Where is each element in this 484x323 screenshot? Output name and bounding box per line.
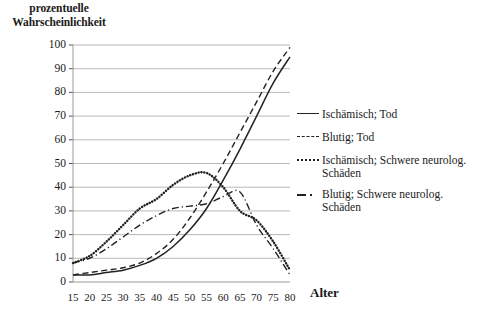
y-axis-tick-label: 0 [36,276,66,288]
y-axis-tick-label: 60 [36,134,66,146]
y-axis-tick-label: 70 [36,110,66,122]
y-axis-tick-label: 10 [36,252,66,264]
y-axis-tick-label: 50 [36,158,66,170]
legend-item[interactable]: Blutig; Schwere neurolog. Schäden [297,188,484,213]
x-axis-title: Alter [310,285,339,301]
legend-item[interactable]: Ischämisch; Tod [297,108,484,122]
y-axis-tick-label: 90 [36,63,66,75]
legend-item-label: Blutig; Tod [322,131,484,144]
legend-line-swatch-dashed [297,136,319,140]
legend-item-label: Ischämisch; Schwere neurolog. Schäden [322,154,484,179]
chart-legend: Ischämisch; TodBlutig; TodIschämisch; Sc… [297,108,484,222]
legend-line-swatch-solid [297,113,319,117]
y-axis-title: prozentuelle Wahrscheinlichkeit [0,2,118,29]
legend-line-swatch-dotted [297,159,319,164]
series-line [73,47,290,275]
y-axis-tick-label: 100 [36,39,66,51]
chart-container: prozentuelle Wahrscheinlichkeit 01020304… [0,0,484,323]
y-axis-tick-label: 40 [36,181,66,193]
legend-item-label: Ischämisch; Tod [322,108,484,121]
y-axis-title-line2: Wahrscheinlichkeit [12,16,105,28]
legend-line-swatch-dashdot [297,194,319,196]
series-line [73,190,290,274]
x-axis-tick-label: 80 [279,292,301,303]
legend-item[interactable]: Ischämisch; Schwere neurolog. Schäden [297,154,484,179]
y-axis-tick-label: 80 [36,86,66,98]
legend-item-label: Blutig; Schwere neurolog. Schäden [322,188,484,213]
y-axis-tick-label: 30 [36,205,66,217]
legend-item[interactable]: Blutig; Tod [297,131,484,145]
y-axis-title-line1: prozentuelle [29,2,88,14]
y-axis-tick-label: 20 [36,229,66,241]
